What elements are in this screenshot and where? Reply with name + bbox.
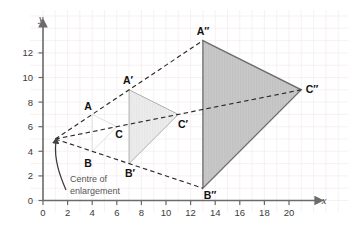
y-tick-label: 12	[22, 47, 33, 58]
enlargement-figure: 0 2 4 6 8 10 12 14 16 18 20 0 2 4 6 8 10…	[0, 0, 350, 236]
vertex-label-c-prime: C′	[178, 118, 189, 130]
x-tick-label: 8	[139, 207, 144, 218]
vertex-label-a-prime: A′	[123, 74, 134, 86]
vertex-label-a-double-prime: A″	[197, 25, 210, 37]
x-tick-label: 14	[210, 207, 221, 218]
x-tick-label: 12	[185, 207, 196, 218]
centre-note-line-1: Centre of	[70, 174, 108, 184]
x-axis-label: x	[321, 195, 327, 206]
figure-svg: 0 2 4 6 8 10 12 14 16 18 20 0 2 4 6 8 10…	[0, 0, 350, 236]
x-tick-label: 6	[114, 207, 119, 218]
x-tick-label: 0	[40, 207, 45, 218]
y-tick-label: 6	[28, 121, 33, 132]
vertex-label-b-prime: B′	[125, 167, 136, 179]
y-tick-label: 2	[28, 170, 33, 181]
x-tick-label: 4	[90, 207, 95, 218]
x-tick-label: 20	[284, 207, 295, 218]
vertex-label-c-double-prime: C″	[306, 83, 319, 95]
y-tick-label: 4	[28, 146, 33, 157]
vertex-label-b: B	[84, 157, 92, 169]
vertex-label-b-double-prime: B″	[204, 189, 217, 201]
x-tick-label: 16	[235, 207, 246, 218]
y-tick-label: 8	[28, 97, 33, 108]
vertex-label-a: A	[84, 100, 92, 112]
x-tick-label: 10	[161, 207, 172, 218]
y-tick-label: 10	[22, 72, 33, 83]
centre-note-line-2: enlargement	[70, 186, 121, 196]
y-axis-label: y	[38, 13, 44, 24]
vertex-label-c: C	[115, 128, 123, 140]
y-tick-label: 0	[28, 195, 33, 206]
x-tick-label: 2	[65, 207, 70, 218]
x-tick-label: 18	[259, 207, 270, 218]
